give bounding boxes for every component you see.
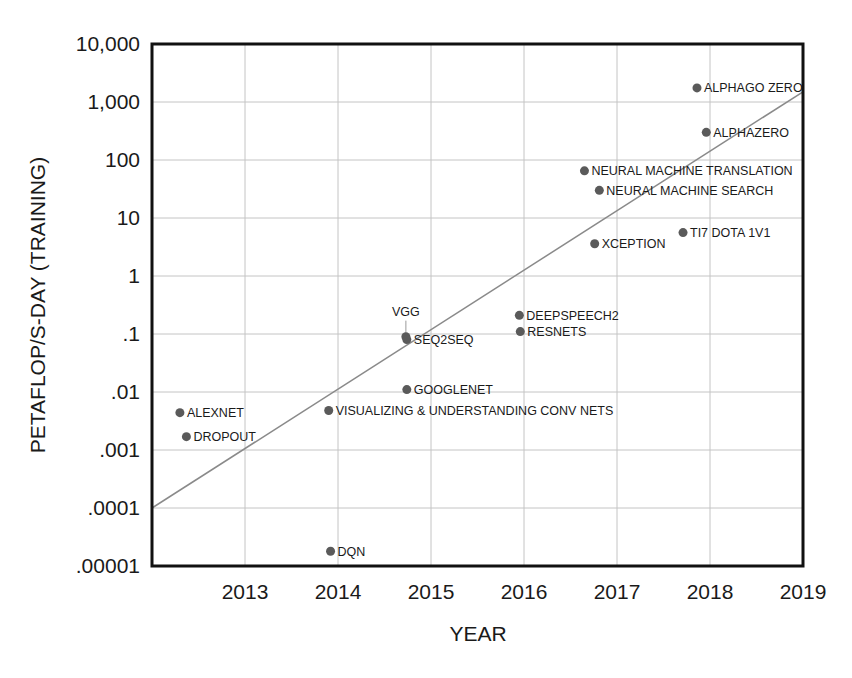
data-point: NEURAL MACHINE SEARCH	[595, 184, 773, 198]
y-tick-label: 100	[105, 148, 140, 171]
point-label: DEEPSPEECH2	[526, 309, 618, 323]
x-tick-label: 2015	[408, 580, 455, 603]
point-label: DQN	[338, 545, 366, 559]
point-label: VGG	[392, 305, 420, 319]
trend-line	[152, 92, 803, 508]
point-marker	[516, 327, 525, 336]
data-point: ALEXNET	[175, 406, 244, 420]
data-point: RESNETS	[516, 325, 587, 339]
x-tick-label: 2016	[501, 580, 548, 603]
point-marker	[182, 432, 191, 441]
y-tick-label: .01	[111, 380, 140, 403]
data-point: DROPOUT	[182, 430, 256, 444]
point-marker	[702, 128, 711, 137]
y-tick-label: .0001	[87, 496, 140, 519]
point-marker	[175, 408, 184, 417]
point-label: DROPOUT	[193, 430, 256, 444]
point-label: ALEXNET	[187, 406, 244, 420]
x-tick-label: 2013	[222, 580, 269, 603]
data-point: VISUALIZING & UNDERSTANDING CONV NETS	[324, 404, 613, 418]
x-axis-title: YEAR	[449, 622, 506, 645]
data-point: NEURAL MACHINE TRANSLATION	[580, 164, 793, 178]
data-point: ALPHAZERO	[702, 126, 789, 140]
x-tick-label: 2018	[687, 580, 734, 603]
point-marker	[402, 335, 411, 344]
y-tick-label: .001	[99, 438, 140, 461]
y-tick-label: .00001	[76, 554, 140, 577]
point-marker	[580, 166, 589, 175]
point-label: SEQ2SEQ	[414, 333, 474, 347]
point-label: ALPHAGO ZERO	[704, 81, 803, 95]
point-label: NEURAL MACHINE TRANSLATION	[591, 164, 792, 178]
data-point: DQN	[326, 545, 365, 559]
point-marker	[402, 385, 411, 394]
point-marker	[326, 547, 335, 556]
y-axis-title: PETAFLOP/S-DAY (TRAINING)	[26, 157, 49, 453]
point-marker	[324, 406, 333, 415]
point-marker	[590, 239, 599, 248]
x-tick-label: 2017	[594, 580, 641, 603]
y-tick-label: 1	[128, 264, 140, 287]
data-point: TI7 DOTA 1V1	[679, 226, 771, 240]
y-tick-label: 1,000	[87, 90, 140, 113]
data-point: DEEPSPEECH2	[515, 309, 619, 323]
y-tick-label: 10	[117, 206, 140, 229]
x-axis-ticks: 2013201420152016201720182019	[222, 580, 827, 603]
x-tick-label: 2019	[780, 580, 827, 603]
point-marker	[679, 228, 688, 237]
y-tick-label: .1	[122, 322, 140, 345]
point-label: GOOGLENET	[414, 383, 494, 397]
data-point: XCEPTION	[590, 237, 665, 251]
point-label: NEURAL MACHINE SEARCH	[606, 184, 773, 198]
grid-lines	[152, 44, 803, 566]
point-marker	[595, 186, 604, 195]
plot-frame	[152, 44, 803, 566]
data-point: SEQ2SEQ	[402, 333, 474, 347]
point-marker	[692, 83, 701, 92]
point-label: ALPHAZERO	[713, 126, 789, 140]
data-point: ALPHAGO ZERO	[692, 81, 802, 95]
data-point: GOOGLENET	[402, 383, 493, 397]
x-tick-label: 2014	[315, 580, 362, 603]
y-axis-ticks: 10,0001,000100101.1.01.001.0001.00001	[76, 32, 140, 577]
data-points: ALPHAGO ZEROALPHAZERONEURAL MACHINE TRAN…	[175, 81, 802, 558]
point-label: RESNETS	[527, 325, 586, 339]
y-tick-label: 10,000	[76, 32, 140, 55]
point-label: VISUALIZING & UNDERSTANDING CONV NETS	[336, 404, 614, 418]
point-label: TI7 DOTA 1V1	[690, 226, 770, 240]
point-marker	[515, 311, 524, 320]
scatter-chart: ALPHAGO ZEROALPHAZERONEURAL MACHINE TRAN…	[0, 0, 852, 678]
point-label: XCEPTION	[602, 237, 666, 251]
